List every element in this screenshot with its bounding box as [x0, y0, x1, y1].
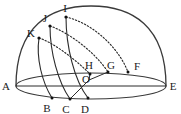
point-label-K: K: [27, 27, 35, 39]
vertex-dot-J: [48, 24, 51, 27]
point-label-G: G: [107, 59, 115, 71]
solid-arc-K-B: [38, 38, 52, 98]
dotted-arc-K-H: [39, 38, 90, 74]
dotted-arc-J-G: [50, 26, 108, 72]
point-label-F: F: [134, 60, 140, 72]
vertex-dot-F: [127, 71, 130, 74]
point-label-J: J: [43, 12, 48, 24]
point-label-A: A: [2, 80, 10, 92]
point-label-O: O: [82, 73, 90, 85]
point-label-E: E: [170, 80, 177, 92]
vertex-dot-K: [37, 36, 40, 39]
dotted-arc-I-F: [66, 17, 128, 72]
point-label-H: H: [85, 59, 93, 71]
point-label-I: I: [63, 2, 67, 14]
point-label-D: D: [81, 103, 89, 114]
hemisphere-diagram: A B C D E F G H I J K O: [0, 0, 181, 114]
vertex-dot-C: [69, 98, 72, 101]
point-label-B: B: [43, 102, 50, 114]
point-label-C: C: [62, 103, 69, 114]
diagram-canvas: A B C D E F G H I J K O: [0, 0, 181, 114]
vertex-dot-D: [87, 97, 90, 100]
vertex-dot-I: [64, 15, 67, 18]
vertex-dot-B: [51, 97, 54, 100]
